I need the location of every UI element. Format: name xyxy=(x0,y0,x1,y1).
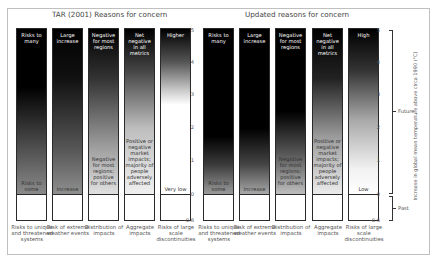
past-region xyxy=(17,194,46,220)
risk-gradient-bar xyxy=(204,29,233,194)
column-bottom-label: Positive or negative market impacts; maj… xyxy=(313,138,342,186)
past-bracket-bottom xyxy=(389,220,393,221)
past-label: Past xyxy=(398,205,409,211)
column-bottom-label: Increase xyxy=(240,186,269,192)
tick-label: 4 xyxy=(366,59,380,65)
tick-label: 1 xyxy=(366,157,380,163)
tick-label: 3 xyxy=(180,91,194,97)
tick-label: 5 xyxy=(180,27,194,33)
future-bracket-bottom xyxy=(389,193,393,194)
category-label: Risks of large scale discontinuities xyxy=(154,224,198,243)
rfc-column: Large increaseIncrease xyxy=(239,28,270,221)
past-region xyxy=(204,194,233,220)
tick-label: 5 xyxy=(366,27,380,33)
category-label: Risks of large scale discontinuities xyxy=(342,224,386,243)
column-top-label: Risks to many xyxy=(204,32,233,44)
column-top-label: Net negative in all metrics xyxy=(125,32,154,56)
tick-label: 1 xyxy=(180,157,194,163)
rfc-column: Negative for most regionsNegative for mo… xyxy=(275,28,306,221)
column-bottom-label: Risks to some xyxy=(204,180,233,192)
future-bracket-line xyxy=(392,30,393,194)
past-region xyxy=(313,194,342,220)
tick-label: 2 xyxy=(180,124,194,130)
column-top-label: Large increase xyxy=(240,32,269,44)
tick-label: -0.6 xyxy=(180,217,194,223)
past-bracket-top xyxy=(389,196,393,197)
column-top-label: Negative for most regions xyxy=(276,32,305,50)
rfc-column: Large increaseIncrease xyxy=(52,28,83,221)
tick-label: 0 xyxy=(180,191,194,197)
column-bottom-label: Negative for most regions; positive for … xyxy=(89,156,118,186)
y-axis-label: Increase in global mean temperature abov… xyxy=(412,51,418,200)
column-bottom-label: Positive or negative market impacts; maj… xyxy=(125,138,154,186)
column-top-label: Net negative in all metrics xyxy=(313,32,342,56)
column-top-label: Large increase xyxy=(53,32,82,44)
rfc-column: Net negative in all metricsPositive or n… xyxy=(312,28,343,221)
past-bracket-tick xyxy=(393,208,396,209)
past-region xyxy=(276,194,305,220)
past-region xyxy=(53,194,82,220)
future-bracket-tick xyxy=(393,111,396,112)
tick-label: 0 xyxy=(366,191,380,197)
column-top-label: Negative for most regions xyxy=(89,32,118,50)
column-bottom-label: Risks to some xyxy=(17,180,46,192)
column-top-label: Risks to many xyxy=(17,32,46,44)
past-region xyxy=(240,194,269,220)
panel-title-updated: Updated reasons for concern xyxy=(245,10,349,19)
rfc-column: Risks to manyRisks to some xyxy=(16,28,47,221)
tick-label: 4 xyxy=(180,59,194,65)
panel-title-tar: TAR (2001) Reasons for concern xyxy=(52,10,167,19)
past-region xyxy=(89,194,118,220)
column-bottom-label: Increase xyxy=(53,186,82,192)
risk-gradient-bar xyxy=(240,29,269,194)
tick-label: 3 xyxy=(366,91,380,97)
tick-label: 2 xyxy=(366,124,380,130)
risk-gradient-bar xyxy=(349,29,378,194)
tick-label: -0.6 xyxy=(366,217,380,223)
future-bracket-top xyxy=(389,30,393,31)
rfc-column: Risks to manyRisks to some xyxy=(203,28,234,221)
past-region xyxy=(125,194,154,220)
rfc-column: Negative for most regionsNegative for mo… xyxy=(88,28,119,221)
risk-gradient-bar xyxy=(53,29,82,194)
rfc-column: Net negative in all metricsPositive or n… xyxy=(124,28,155,221)
risk-gradient-bar xyxy=(17,29,46,194)
column-bottom-label: Negative for most regions; positive for … xyxy=(276,156,305,186)
risk-gradient-bar xyxy=(161,29,190,194)
